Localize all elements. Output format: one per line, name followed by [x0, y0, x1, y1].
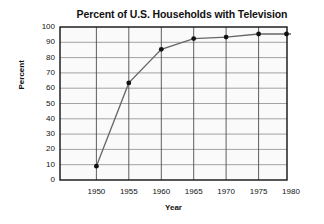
x-tick-1970: 1970: [209, 188, 243, 196]
data-point-1965: [191, 36, 196, 41]
x-tick-1975: 1975: [242, 188, 276, 196]
data-point-1980: [284, 32, 289, 37]
x-tick-1980: 1980: [274, 188, 308, 196]
data-point-1960: [159, 47, 164, 52]
chart-container: Percent of U.S. Households with Televisi…: [0, 0, 324, 224]
y-tick-70: 70: [31, 69, 55, 77]
data-point-1970: [224, 35, 229, 40]
y-tick-50: 50: [31, 100, 55, 108]
data-point-1955: [126, 81, 131, 86]
y-tick-40: 40: [31, 115, 55, 123]
y-tick-20: 20: [31, 145, 55, 153]
y-tick-90: 90: [31, 38, 55, 46]
y-tick-60: 60: [31, 84, 55, 92]
y-tick-100: 100: [31, 23, 55, 31]
x-tick-1950: 1950: [79, 188, 113, 196]
y-tick-30: 30: [31, 130, 55, 138]
y-tick-80: 80: [31, 54, 55, 62]
data-point-1975: [256, 32, 261, 37]
x-tick-1955: 1955: [112, 188, 146, 196]
y-tick-10: 10: [31, 161, 55, 169]
x-tick-1965: 1965: [177, 188, 211, 196]
x-tick-1960: 1960: [144, 188, 178, 196]
data-point-1950: [94, 164, 99, 169]
y-tick-0: 0: [31, 176, 55, 184]
